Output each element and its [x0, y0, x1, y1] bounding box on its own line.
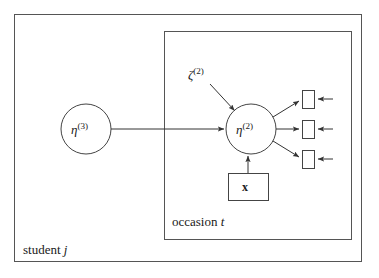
- edge-eta2-to-indicator1: [273, 101, 299, 117]
- occasion-plate-label: occasion t: [172, 215, 224, 228]
- eta-level3-label: η(3): [71, 122, 88, 136]
- edge-eta2-to-indicator3: [273, 141, 299, 157]
- covariate-label: x: [242, 181, 248, 193]
- path-diagram-figure: η(3) η(2) ζ(2) x occasion t student j: [0, 0, 379, 278]
- covariate-box-rect: [229, 174, 269, 201]
- occasion-plate-text: occasion: [172, 214, 217, 229]
- eta-level2-superscript: (2): [242, 121, 253, 131]
- student-plate-index: j: [64, 242, 68, 257]
- indicator-1-rect: [303, 91, 315, 109]
- occasion-plate-index: t: [221, 214, 225, 229]
- zeta-superscript: (2): [193, 66, 204, 76]
- student-plate-text: student: [23, 242, 61, 257]
- indicator-2-rect: [303, 121, 315, 139]
- student-plate-label: student j: [23, 243, 67, 256]
- indicator-3-rect: [303, 151, 315, 169]
- zeta-disturbance-label: ζ(2): [188, 67, 204, 81]
- eta-level3-superscript: (3): [77, 121, 88, 131]
- diagram-canvas: [0, 0, 379, 278]
- edge-zeta2-to-eta2: [210, 84, 235, 111]
- eta-level2-label: η(2): [236, 122, 253, 136]
